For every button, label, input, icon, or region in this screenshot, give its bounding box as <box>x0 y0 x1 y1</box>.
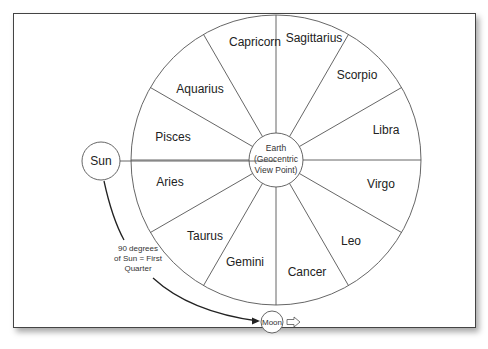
earth-label-line2: (Geocentric <box>254 154 299 164</box>
annotation-line1: 90 degrees <box>118 244 158 253</box>
orbit-arc-lower <box>153 278 258 321</box>
earth-label: Earth <box>266 143 287 153</box>
sign-capricorn: Capricorn <box>229 35 281 49</box>
arrowhead-icon <box>252 318 260 325</box>
annotation-line2: of Sun = First <box>114 254 163 263</box>
hollow-right-arrow-icon <box>287 317 300 327</box>
sign-sagittarius: Sagittarius <box>286 31 343 45</box>
annotation-line3: Quarter <box>124 264 151 273</box>
moon-label: Moon <box>262 318 282 327</box>
sign-aquarius: Aquarius <box>176 82 223 96</box>
sign-virgo: Virgo <box>367 177 395 191</box>
sign-libra: Libra <box>373 123 400 137</box>
orbit-arc-upper <box>104 181 124 240</box>
sign-taurus: Taurus <box>187 229 223 243</box>
earth-label-line3: View Point) <box>255 165 298 175</box>
sign-cancer: Cancer <box>288 265 327 279</box>
sign-gemini: Gemini <box>226 255 264 269</box>
sign-pisces: Pisces <box>155 130 190 144</box>
sign-aries: Aries <box>156 175 183 189</box>
zodiac-diagram: Earth (Geocentric View Point) Sagittariu… <box>0 0 488 349</box>
sign-leo: Leo <box>341 234 361 248</box>
sun-label: Sun <box>90 154 111 168</box>
sign-scorpio: Scorpio <box>337 68 378 82</box>
